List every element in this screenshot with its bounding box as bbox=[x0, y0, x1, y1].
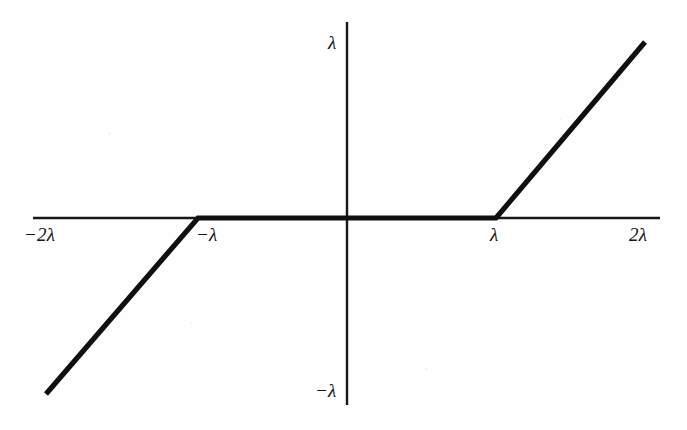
x-tick-label-2-lambda: 2λ bbox=[629, 225, 647, 244]
figure-canvas: −2λ −λ λ 2λ λ −λ bbox=[0, 0, 687, 430]
y-tick-label-neg-lambda: −λ bbox=[315, 381, 336, 400]
x-tick-label-lambda: λ bbox=[490, 225, 498, 244]
x-tick-label-neg-lambda: −λ bbox=[196, 225, 217, 244]
x-tick-label-neg-2-lambda: −2λ bbox=[24, 225, 55, 244]
y-tick-label-lambda: λ bbox=[328, 33, 336, 52]
plot-svg bbox=[0, 0, 687, 430]
